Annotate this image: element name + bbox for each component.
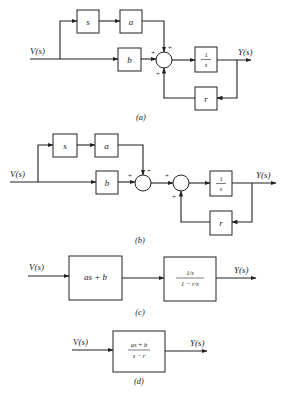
sign-plus: + bbox=[128, 172, 132, 180]
block-s-label: s bbox=[63, 141, 67, 151]
closed-loop-numerator: 1/s bbox=[186, 269, 194, 276]
tf-numerator: as + b bbox=[131, 341, 148, 348]
caption-b: (b) bbox=[135, 235, 145, 245]
block-as-plus-b-label: as + b bbox=[84, 272, 108, 282]
block-r-label: r bbox=[219, 218, 223, 228]
feedback-line bbox=[164, 68, 195, 98]
signal-line bbox=[142, 21, 164, 52]
branch-line bbox=[38, 145, 53, 182]
sign-plus: + bbox=[147, 167, 151, 175]
summing-junction-2 bbox=[173, 175, 189, 191]
input-label: V(s) bbox=[73, 337, 88, 347]
sign-plus: + bbox=[172, 193, 176, 201]
caption-a: (a) bbox=[136, 112, 146, 122]
input-label: V(s) bbox=[30, 46, 45, 56]
diagram-d: V(s) as + b s − r Y(s) (d) bbox=[72, 331, 207, 386]
feedback-line bbox=[217, 60, 237, 98]
block-a-label: a bbox=[104, 141, 109, 151]
integrator-numerator: 1 bbox=[204, 51, 207, 58]
sign-plus: + bbox=[165, 172, 169, 180]
feedback-line bbox=[181, 191, 210, 222]
block-diagram-figure: V(s) s a b + + + 1 s Y(s) r (a) bbox=[0, 0, 281, 397]
diagram-b: V(s) s a b + + + + 1 s Y(s) r bbox=[10, 134, 276, 245]
diagram-a: V(s) s a b + + + 1 s Y(s) r (a) bbox=[30, 10, 253, 122]
block-b-label: b bbox=[127, 55, 132, 65]
summing-junction-1 bbox=[135, 175, 151, 191]
tf-denominator: s − r bbox=[133, 352, 146, 359]
sign-plus: + bbox=[168, 44, 172, 52]
closed-loop-denominator: 1 − r/s bbox=[181, 280, 199, 287]
output-label: Y(s) bbox=[256, 170, 271, 180]
sign-plus: + bbox=[151, 49, 155, 57]
output-label: Y(s) bbox=[238, 47, 253, 57]
block-a-label: a bbox=[129, 17, 134, 27]
block-b-label: b bbox=[105, 178, 110, 188]
summing-junction bbox=[156, 52, 172, 68]
input-label: V(s) bbox=[10, 169, 25, 179]
diagram-c: V(s) as + b 1/s 1 − r/s Y(s) (c) bbox=[28, 256, 256, 317]
block-closed-loop bbox=[164, 257, 216, 301]
integrator-numerator: 1 bbox=[219, 175, 222, 182]
input-label: V(s) bbox=[29, 262, 44, 272]
signal-line bbox=[118, 145, 143, 175]
feedback-line bbox=[232, 183, 252, 222]
output-label: Y(s) bbox=[234, 265, 249, 275]
sign-plus: + bbox=[156, 70, 160, 78]
caption-c: (c) bbox=[135, 307, 145, 317]
output-label: Y(s) bbox=[190, 338, 205, 348]
block-r-label: r bbox=[204, 94, 208, 104]
caption-d: (d) bbox=[134, 376, 144, 386]
branch-line bbox=[60, 21, 77, 59]
block-s-label: s bbox=[86, 17, 90, 27]
